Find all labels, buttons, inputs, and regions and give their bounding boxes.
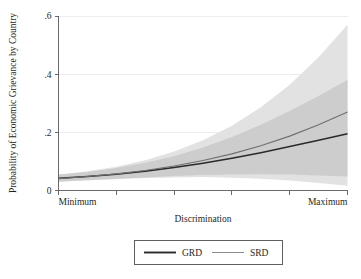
x-tick-label-0: Minimum (59, 197, 98, 207)
legend-label-grd: GRD (182, 248, 202, 258)
x-axis-title: Discrimination (175, 214, 232, 224)
y-axis-title: Probability of Economic Grievance by Cou… (8, 13, 18, 193)
legend-label-srd: SRD (250, 248, 269, 258)
y-tick-label-1: .4 (44, 70, 51, 80)
x-tick-label-5: Maximum (308, 197, 348, 207)
y-tick-label-0: .6 (44, 11, 51, 21)
y-tick-label-3: 0 (47, 186, 52, 196)
chart-figure: .6.4.20 MinimumMaximum Probability of Ec… (0, 0, 361, 279)
y-tick-label-2: .2 (44, 128, 51, 138)
marginal-effects-plot: .6.4.20 MinimumMaximum Probability of Ec… (0, 0, 361, 279)
